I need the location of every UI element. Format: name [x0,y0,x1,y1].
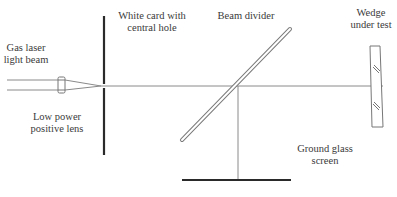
label-screen-line1: Ground glass [292,143,358,155]
label-wedge: Wedge under test [346,7,396,31]
label-white-card: White card with central hole [112,10,192,34]
label-screen-line2: screen [292,155,358,167]
label-beam-divider: Beam divider [214,10,278,22]
laser-beam [7,80,101,90]
beam-divider [182,29,290,140]
diagram-canvas [0,0,397,197]
label-gas-laser-line1: Gas laser [2,42,50,54]
label-gas-laser: Gas laser light beam [2,42,50,66]
label-beam-divider-line1: Beam divider [214,10,278,22]
label-white-card-line1: White card with [112,10,192,22]
lens-icon [58,77,65,93]
label-lens-line1: Low power [26,111,88,123]
label-lens-line2: positive lens [26,123,88,135]
label-wedge-line2: under test [346,19,396,31]
label-white-card-line2: central hole [112,22,192,34]
optical-setup-diagram: Gas laser light beam Low power positive … [0,0,397,197]
label-lens: Low power positive lens [26,111,88,135]
label-wedge-line1: Wedge [346,7,396,19]
label-ground-glass-screen: Ground glass screen [292,143,358,167]
label-gas-laser-line2: light beam [2,54,50,66]
wedge-icon [370,46,383,127]
